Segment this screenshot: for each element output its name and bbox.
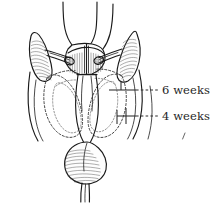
- callout-label-6-weeks: 6 weeks: [162, 85, 210, 97]
- leader-line-4-weeks: [117, 108, 159, 124]
- broad-ligament-left: [30, 32, 75, 81]
- uterine-horn-left: [63, 2, 72, 45]
- stray-tick-mark: [183, 133, 185, 139]
- involution-outline-6-weeks: [44, 69, 126, 137]
- anatomy-illustration: [0, 0, 216, 204]
- involution-figure: 6 weeks 4 weeks: [0, 0, 216, 204]
- uterine-horn-right-outer: [103, 4, 113, 49]
- uterine-horn-right: [90, 2, 97, 45]
- uterine-body: [65, 43, 104, 74]
- callout-label-4-weeks: 4 weeks: [162, 111, 210, 123]
- involution-outline-4-weeks: [53, 78, 118, 132]
- pelvic-sidewall-left: [28, 72, 43, 141]
- pelvic-sidewall-right-outer: [148, 86, 152, 139]
- vaginal-stump: [81, 183, 90, 202]
- cervix: [65, 142, 107, 184]
